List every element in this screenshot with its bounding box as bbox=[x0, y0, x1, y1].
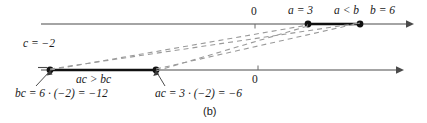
lower-axis-arrowhead bbox=[396, 66, 404, 74]
number-line-figure: 0 a = 3 a < b b = 6 c = −2 ac > bc 0 bc … bbox=[0, 0, 427, 123]
figure-caption: (b) bbox=[203, 105, 216, 117]
label-ac-computation: ac = 3 · (−2) = −6 bbox=[155, 88, 242, 100]
label-a-less-than-b: a < b bbox=[334, 5, 359, 17]
upper-axis-group bbox=[41, 20, 414, 28]
upper-point-b bbox=[357, 21, 364, 28]
label-ac-greater-than-bc: ac > bc bbox=[76, 74, 111, 86]
lower-origin-label: 0 bbox=[252, 74, 258, 86]
label-c-equals-minus-2: c = −2 bbox=[23, 38, 55, 50]
label-b-equals-6: b = 6 bbox=[370, 5, 395, 17]
dashed-line-ac-to-a bbox=[156, 26, 308, 71]
label-bc-computation: bc = 6 · (−2) = −12 bbox=[15, 88, 108, 100]
dashed-line-bc-to-a bbox=[50, 25, 308, 70]
dashed-mapping-lines bbox=[50, 23, 360, 71]
label-a-equals-3: a = 3 bbox=[288, 5, 313, 17]
leader-line-bc bbox=[36, 71, 50, 86]
upper-axis-arrowhead bbox=[406, 20, 414, 28]
upper-origin-label: 0 bbox=[251, 6, 257, 18]
